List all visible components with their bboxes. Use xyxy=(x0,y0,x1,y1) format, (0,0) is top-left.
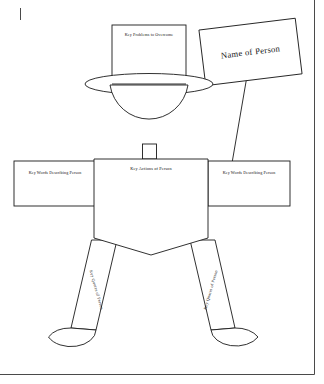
worksheet-page: Name of Person Key Problems to Overcome … xyxy=(0,0,324,384)
right-foot xyxy=(211,328,258,346)
torso-label: Key Actions of Person xyxy=(130,166,172,171)
head[interactable] xyxy=(110,85,188,119)
left-arm-label: Key Words Describing Person xyxy=(29,170,82,175)
right-arm-label: Key Words Describing Person xyxy=(223,170,276,175)
right-arm-box[interactable] xyxy=(208,161,290,206)
sign-board[interactable]: Name of Person xyxy=(199,18,302,85)
hat-box-label: Key Problems to Overcome xyxy=(125,32,174,37)
neck xyxy=(143,144,157,159)
torso[interactable] xyxy=(94,159,208,255)
left-foot xyxy=(49,328,97,347)
body-biography-diagram: Name of Person Key Problems to Overcome … xyxy=(0,0,324,384)
left-arm-box[interactable] xyxy=(14,161,96,206)
sign-pole xyxy=(232,76,248,166)
